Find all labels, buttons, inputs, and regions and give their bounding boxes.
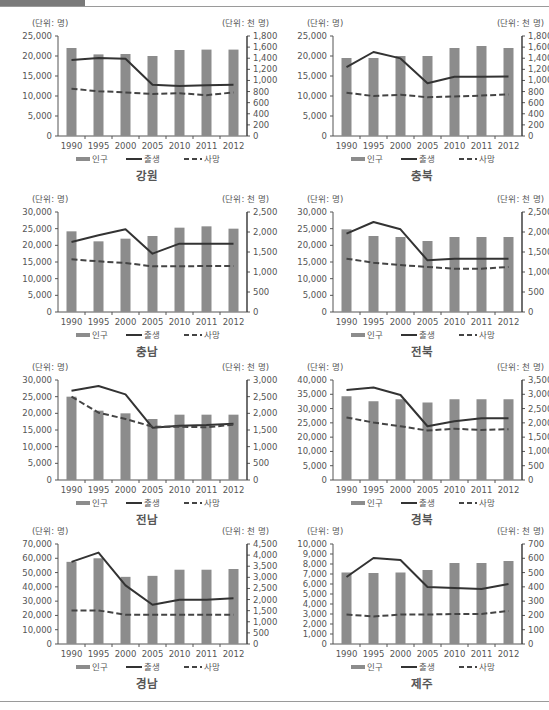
population-bar [369,573,379,644]
top-divider [0,6,549,7]
population-bar [423,570,433,644]
legend-deaths-label: 사망 [204,498,220,508]
x-tick-label: 2012 [498,141,520,151]
left-tick-label: 20,000 [22,51,52,61]
right-tick-label: 200 [528,610,544,620]
right-tick-label: 400 [528,582,544,592]
right-tick-label: 3,500 [528,375,549,385]
legend-population-swatch [351,333,365,337]
population-bar [175,570,185,644]
x-tick-label: 2005 [417,141,439,151]
x-tick-label: 2011 [196,485,218,495]
left-tick-label: 5,000 [303,290,327,300]
x-tick-label: 2005 [142,317,164,327]
left-tick-label: 1,000 [303,629,327,639]
x-tick-label: 2010 [169,141,191,151]
left-tick-label: 0 [322,639,327,649]
x-tick-label: 1990 [336,649,358,659]
left-tick-label: 3,000 [303,609,327,619]
left-tick-label: 25,000 [297,31,327,41]
legend-population-swatch [351,157,365,161]
population-bar [121,413,131,480]
right-tick-label: 1,000 [528,446,549,456]
population-bar [504,399,514,480]
legend-births-label: 출생 [144,662,160,672]
right-tick-label: 0 [253,475,258,485]
left-tick-label: 0 [47,639,52,649]
x-tick-label: 2012 [223,317,245,327]
population-bar [369,401,379,480]
right-tick-label: 0 [253,131,258,141]
right-tick-label: 500 [528,287,544,297]
legend-deaths-label: 사망 [479,154,495,164]
legend-births-label: 출생 [419,154,435,164]
left-tick-label: 8,000 [303,559,327,569]
right-tick-label: 2,500 [253,392,277,402]
legend-births-label: 출생 [419,330,435,340]
population-bar [148,236,158,312]
left-tick-label: 30,000 [297,404,327,414]
right-tick-label: 500 [253,458,269,468]
x-tick-label: 2011 [196,141,218,151]
left-tick-label: 7,000 [303,569,327,579]
right-tick-label: 0 [528,131,533,141]
right-unit-label: (단위: 천 명) [222,526,269,536]
x-tick-label: 2012 [498,485,520,495]
x-tick-label: 1990 [61,317,83,327]
x-tick-label: 1990 [336,141,358,151]
right-tick-label: 1,000 [253,267,277,277]
population-bar [94,241,104,312]
legend-births-label: 출생 [144,154,160,164]
population-bar [342,229,352,312]
x-tick-label: 2011 [471,649,493,659]
left-tick-label: 60,000 [22,553,52,563]
right-unit-label: (단위: 천 명) [497,194,544,204]
right-tick-label: 2,000 [253,227,277,237]
right-tick-label: 500 [253,628,269,638]
left-tick-label: 25,000 [297,224,327,234]
left-tick-label: 30,000 [22,596,52,606]
x-tick-label: 1995 [363,317,385,327]
population-bar [423,403,433,481]
left-unit-label: (단위: 명) [32,362,68,372]
right-tick-label: 200 [528,120,544,130]
left-tick-label: 5,000 [303,111,327,121]
left-tick-label: 20,000 [22,408,52,418]
left-tick-label: 15,000 [22,425,52,435]
left-unit-label: (단위: 명) [307,18,343,28]
x-tick-label: 2000 [115,485,137,495]
chart-jeju: (단위: 명)(단위: 천 명)01,0002,0003,0004,0005,0… [275,516,549,688]
right-tick-label: 1,200 [528,64,549,74]
population-bar [342,573,352,645]
chart-chungbuk: (단위: 명)(단위: 천 명)05,00010,00015,00020,000… [275,8,549,180]
right-tick-label: 1,500 [253,247,277,257]
population-bar [121,239,131,312]
x-tick-label: 2000 [115,141,137,151]
right-tick-label: 400 [253,109,269,119]
right-tick-label: 2,000 [528,227,549,237]
right-tick-label: 200 [253,120,269,130]
population-bar [121,54,131,136]
legend-deaths-label: 사망 [204,662,220,672]
left-tick-label: 9,000 [303,549,327,559]
legend-births-label: 출생 [419,498,435,508]
left-tick-label: 30,000 [297,207,327,217]
right-unit-label: (단위: 천 명) [497,18,544,28]
left-tick-label: 20,000 [297,240,327,250]
right-tick-label: 500 [528,461,544,471]
right-unit-label: (단위: 천 명) [497,526,544,536]
x-tick-label: 2000 [390,485,412,495]
population-bar [450,563,460,644]
legend-deaths-label: 사망 [204,154,220,164]
right-tick-label: 3,500 [253,561,277,571]
left-tick-label: 0 [47,131,52,141]
left-tick-label: 40,000 [297,375,327,385]
x-tick-label: 2011 [471,485,493,495]
left-unit-label: (단위: 명) [307,194,343,204]
right-tick-label: 1,600 [253,42,277,52]
chart-svg: (단위: 명)(단위: 천 명)05,00010,00015,00020,000… [0,8,274,180]
population-bar [175,415,185,480]
left-tick-label: 10,000 [22,442,52,452]
legend-population-label: 인구 [367,154,383,164]
x-tick-label: 2010 [444,649,466,659]
